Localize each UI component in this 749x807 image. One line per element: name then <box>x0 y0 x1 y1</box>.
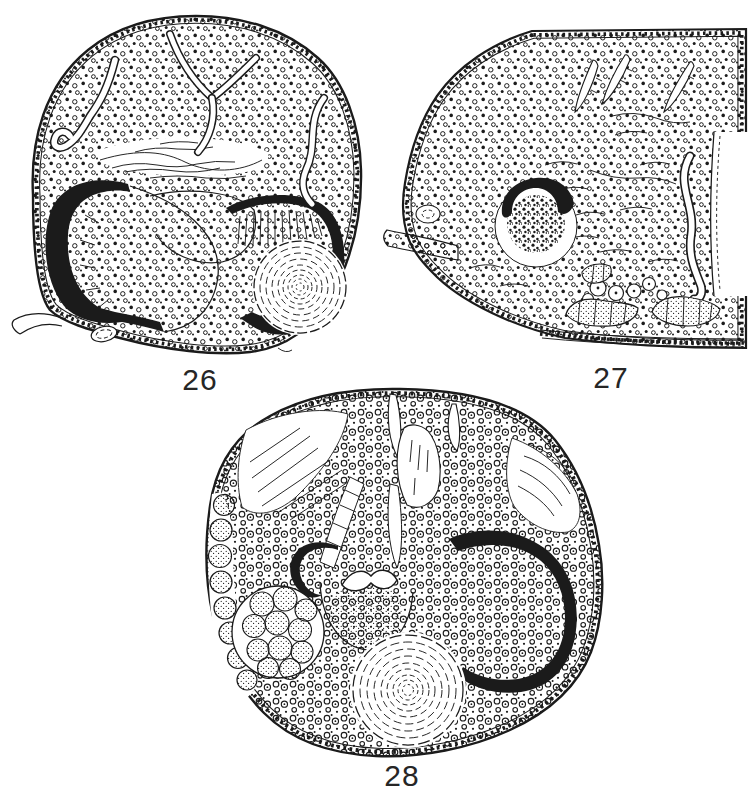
figure-27-drawing <box>384 29 749 348</box>
concentric-sphere <box>350 632 466 748</box>
concentric-sphere <box>252 239 348 335</box>
figure-28-label: 28 <box>362 761 442 791</box>
figure-28-drawing <box>207 389 603 756</box>
figure-26-label: 26 <box>160 365 240 395</box>
whorl-vesicle <box>416 205 440 223</box>
cell-rosette <box>232 586 324 680</box>
cut-edge <box>711 132 749 296</box>
figure-plate-page: 26 27 28 <box>0 0 749 807</box>
figure-26-drawing <box>12 16 361 353</box>
plate-drawing <box>0 0 749 807</box>
figure-27-label: 27 <box>571 363 651 393</box>
